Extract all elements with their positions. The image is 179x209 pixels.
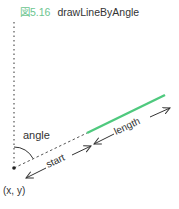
start-label: start bbox=[44, 152, 66, 170]
origin-point bbox=[12, 166, 16, 170]
start-arrow-left bbox=[26, 168, 46, 178]
angle-arc bbox=[14, 147, 33, 159]
angle-label: angle bbox=[23, 129, 50, 141]
diagram-canvas: angle start length (x, y) bbox=[0, 0, 179, 209]
start-arrow-right bbox=[72, 146, 91, 155]
length-arrow-right bbox=[150, 108, 170, 117]
origin-label: (x, y) bbox=[3, 185, 25, 196]
length-arrow-left bbox=[94, 134, 114, 144]
